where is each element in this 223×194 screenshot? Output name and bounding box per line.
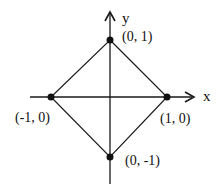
- point-label-top: (0, 1): [122, 29, 153, 45]
- point-label-left: (-1, 0): [15, 110, 50, 126]
- point-label-bottom: (0, -1): [125, 153, 160, 169]
- point-top: [107, 37, 114, 44]
- point-label-right: (1, 0): [160, 111, 191, 127]
- x-axis-label: x: [203, 88, 211, 104]
- diagram-canvas: y x (0, 1) (1, 0) (0, -1) (-1, 0): [0, 0, 223, 194]
- y-axis-label: y: [122, 10, 130, 26]
- diamond-shape: [51, 40, 167, 157]
- point-bottom: [107, 154, 114, 161]
- point-right: [164, 94, 171, 101]
- point-left: [48, 94, 55, 101]
